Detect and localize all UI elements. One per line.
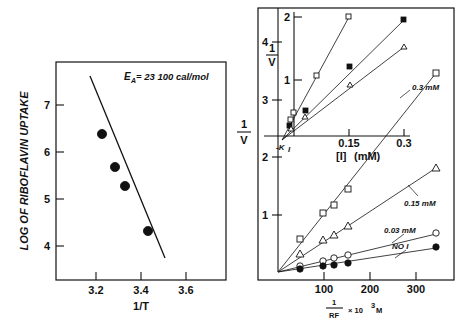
dixon-inset: 2 1 0.15 0.3 [I] (mM) 1 V -K I — [264, 11, 412, 162]
arrhenius-plot: 7 6 5 4 3.2 3.4 3.6 1/T LOG OF RIBOFLAVI… — [0, 0, 232, 325]
arrhenius-x-axis: 3.2 3.4 3.6 — [88, 272, 193, 296]
dixon-xtick-015: 0.15 — [338, 137, 359, 149]
data-point — [347, 64, 352, 69]
lb-x-ticks: 100 200 300 — [315, 272, 425, 295]
data-point — [288, 117, 293, 122]
data-point — [331, 202, 337, 208]
data-point — [296, 250, 304, 257]
dixon-ki-subscript: I — [288, 145, 291, 154]
lb-ytick-3: 3 — [262, 94, 268, 106]
lb-xlabel-multiplier: × 10 — [348, 306, 363, 315]
scientific-figure: 7 6 5 4 3.2 3.4 3.6 1/T LOG OF RIBOFLAVI… — [0, 0, 464, 325]
arrhenius-xtick-32: 3.2 — [88, 284, 103, 296]
dixon-ylabel-numerator: 1 — [269, 42, 275, 54]
data-point — [110, 162, 119, 171]
arrhenius-ytick-6: 6 — [44, 146, 50, 158]
data-point — [320, 263, 326, 269]
arrhenius-ytick-5: 5 — [44, 193, 50, 205]
data-point — [344, 222, 352, 229]
series-label-03mM: 0.3 mM — [412, 83, 439, 92]
dixon-ytick-2: 2 — [284, 11, 290, 23]
data-point — [331, 262, 337, 268]
data-point — [303, 108, 308, 113]
dixon-line-c — [282, 47, 404, 140]
lb-xtick-200: 200 — [361, 283, 379, 295]
lb-ytick-2: 2 — [262, 151, 268, 163]
data-point — [297, 236, 303, 242]
arrhenius-plot-frame — [56, 62, 226, 280]
data-point — [433, 244, 439, 250]
arrhenius-xlabel: 1/T — [133, 300, 149, 312]
data-point — [433, 230, 439, 236]
data-point — [401, 44, 407, 49]
series-label-015mM-group: 0.15 mM — [404, 185, 436, 208]
dixon-xlabel-bracket: [I] — [336, 150, 347, 162]
data-point — [347, 82, 353, 87]
data-point — [97, 129, 106, 138]
lb-xlabel: 1 RF × 10 3 M — [326, 298, 382, 320]
dixon-ki-label: -K — [276, 143, 286, 152]
arrhenius-data-points — [97, 129, 152, 235]
lb-xtick-100: 100 — [315, 283, 333, 295]
lb-xlabel-numerator: 1 — [332, 298, 336, 307]
data-point — [320, 210, 326, 216]
data-point — [314, 73, 319, 78]
lb-ylabel-denominator: V — [240, 134, 248, 146]
annotation-value: = 23 100 cal/mol — [136, 71, 209, 82]
lb-xlabel-unit: M — [376, 306, 382, 315]
dixon-xlabel-unit: (mM) — [354, 150, 381, 162]
dixon-ylabel-denominator: V — [268, 56, 276, 68]
data-point — [291, 110, 296, 115]
data-point — [346, 14, 351, 19]
lb-xlabel-denominator: RF — [329, 311, 339, 320]
series-label-no-inhibitor-group: NO I — [392, 242, 409, 258]
dixon-ytick-1: 1 — [284, 74, 290, 86]
data-point — [345, 252, 351, 258]
dixon-markers-c — [288, 44, 407, 131]
series-markers-015mM — [296, 164, 440, 257]
data-point — [432, 164, 440, 171]
arrhenius-annotation: E A = 23 100 cal/mol — [124, 71, 209, 84]
dixon-xlabel: [I] (mM) — [336, 150, 381, 162]
series-label-03mM-group: 0.3 mM — [400, 83, 439, 98]
series-markers-003mM — [297, 230, 439, 269]
lb-xlabel-exponent: 3 — [371, 301, 375, 310]
data-point — [345, 186, 351, 192]
data-point — [297, 266, 303, 272]
data-point — [401, 17, 406, 22]
data-point — [331, 255, 337, 261]
arrhenius-xtick-34: 3.4 — [133, 284, 149, 296]
data-point — [319, 236, 327, 243]
lb-ytick-1: 1 — [262, 209, 268, 221]
data-point — [433, 70, 439, 76]
series-label-003mM: 0.03 mM — [384, 226, 416, 235]
arrhenius-y-axis: 7 6 5 4 — [44, 99, 64, 252]
series-label-015mM: 0.15 mM — [404, 199, 436, 208]
lb-ytick-4: 4 — [262, 36, 269, 48]
data-point — [302, 114, 308, 119]
lineweaver-burk-plot: 4 3 2 1 1 V 100 200 300 1 RF × 10 3 M — [232, 0, 464, 325]
series-label-003mM-group: 0.03 mM — [384, 226, 416, 243]
lb-xtick-300: 300 — [407, 283, 425, 295]
series-label-no-inhibitor: NO I — [392, 242, 409, 251]
data-point — [143, 226, 152, 235]
arrhenius-ytick-7: 7 — [44, 99, 50, 111]
arrhenius-fit-line — [90, 76, 165, 258]
dixon-markers-b — [287, 17, 406, 128]
data-point — [120, 181, 129, 190]
dixon-xtick-03: 0.3 — [396, 137, 411, 149]
arrhenius-ylabel: LOG OF RIBOFLAVIN UPTAKE — [18, 91, 30, 251]
annotation-symbol: E — [124, 71, 131, 82]
lb-ylabel-numerator: 1 — [241, 118, 247, 130]
arrhenius-ytick-4: 4 — [44, 240, 51, 252]
data-point — [345, 260, 351, 266]
arrhenius-xtick-36: 3.6 — [178, 284, 193, 296]
lb-ylabel: 1 V — [237, 118, 251, 146]
data-point — [330, 231, 338, 238]
